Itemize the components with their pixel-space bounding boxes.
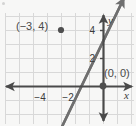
data-point-neg3-4: [58, 27, 64, 33]
point-label-neg3-4: (−3, 4): [16, 20, 48, 32]
point-label-origin: (0, 0): [104, 67, 130, 79]
coordinate-plane-figure: 4 2 −4 −2 y x (−3, 4) (0, 0): [0, 0, 136, 126]
data-point-origin: [100, 83, 107, 90]
x-axis-label: x: [123, 89, 129, 101]
y-tick-label-4: 4: [89, 25, 95, 36]
graph-canvas: 4 2 −4 −2 y x (−3, 4) (0, 0): [0, 0, 136, 126]
x-tick-label-neg2: −2: [62, 92, 74, 103]
x-tick-label-neg4: −4: [34, 92, 46, 103]
y-axis-label: y: [107, 14, 113, 26]
y-tick-label-2: 2: [89, 53, 95, 64]
